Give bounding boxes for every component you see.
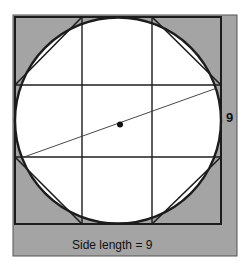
circle-octagon-diagram: 9 Side length = 9 <box>0 0 250 274</box>
center-point <box>117 122 123 128</box>
side-length-label: 9 <box>226 110 233 125</box>
diagram-canvas <box>0 0 250 274</box>
inscribed-circle <box>15 18 221 224</box>
caption: Side length = 9 <box>72 238 152 252</box>
